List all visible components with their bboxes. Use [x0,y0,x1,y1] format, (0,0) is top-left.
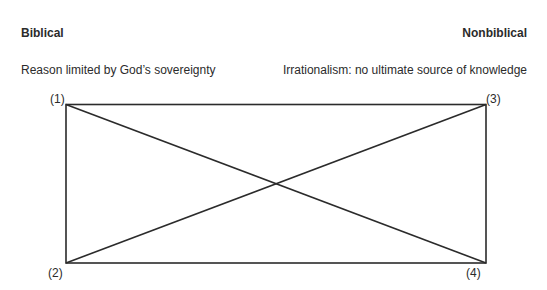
corner-label-2: (2) [48,266,63,280]
corner-label-3: (3) [486,92,501,106]
corner-label-4: (4) [466,266,481,280]
opposition-square-diagram [0,0,547,290]
corner-label-1: (1) [50,92,65,106]
